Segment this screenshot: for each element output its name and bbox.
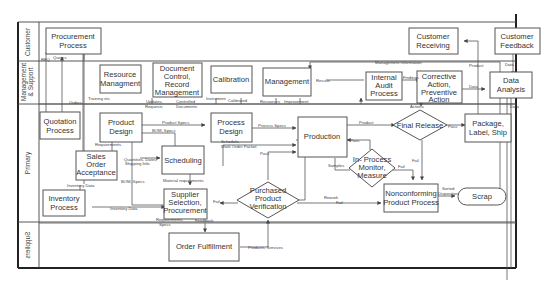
lane-label-primary: Primary — [24, 151, 32, 174]
svg-text:Data: Data — [503, 76, 520, 85]
svg-text:Procurement: Procurement — [51, 32, 95, 41]
svg-text:Fail: Fail — [213, 199, 220, 204]
svg-text:Action: Action — [428, 95, 449, 104]
svg-text:Management Information: Management Information — [375, 60, 422, 65]
svg-text:BOM, Specs: BOM, Specs — [152, 128, 176, 133]
terminal-scrap[interactable]: Scrap — [458, 188, 506, 205]
svg-text:Instrument: Instrument — [206, 96, 227, 101]
svg-text:Results: Results — [316, 78, 330, 83]
process-package-label-ship[interactable]: Package, Label, Ship — [465, 114, 511, 142]
svg-text:Measure: Measure — [357, 171, 387, 180]
svg-text:Calibrated: Calibrated — [228, 98, 248, 103]
decision-purchased-product-verification[interactable]: Purchased Product Verification — [237, 182, 299, 218]
process-quotation[interactable]: Quotation Process — [40, 112, 80, 139]
svg-text:Production: Production — [304, 132, 340, 141]
process-customer-feedback[interactable]: Customer Feedback — [495, 28, 540, 54]
svg-text:Work Order Packet: Work Order Packet — [221, 144, 257, 149]
process-customer-receiving[interactable]: Customer Receiving — [409, 28, 458, 54]
svg-text:Material requirements: Material requirements — [163, 178, 204, 183]
process-data-analysis[interactable]: Data Analysis — [490, 72, 532, 98]
decision-in-process-monitor[interactable]: In- Process Monitor, Measure — [349, 149, 395, 187]
process-procurement[interactable]: Procurement Process — [46, 28, 101, 54]
svg-text:Resources: Resources — [260, 99, 280, 104]
svg-text:Calibration: Calibration — [213, 75, 249, 84]
svg-text:Fail: Fail — [412, 158, 419, 163]
process-production[interactable]: Production — [298, 117, 347, 157]
process-process-design[interactable]: Process Design — [211, 113, 252, 142]
svg-text:Process: Process — [59, 41, 87, 50]
svg-text:Requirements: Requirements — [95, 142, 121, 147]
svg-text:Quotation: Quotation — [44, 117, 77, 126]
process-order-fulfillment[interactable]: Order Fulfillment — [169, 233, 239, 261]
process-scheduling[interactable]: Scheduling — [162, 146, 204, 174]
svg-text:Products, Services: Products, Services — [248, 245, 283, 250]
svg-text:Label, Ship: Label, Ship — [469, 128, 507, 137]
svg-text:Shipping Info.: Shipping Info. — [125, 161, 151, 166]
svg-text:RFQ: RFQ — [41, 57, 51, 62]
process-supplier-selection[interactable]: Supplier Selection, Procurement — [163, 189, 207, 219]
process-resource-management[interactable]: Resource Managment — [100, 65, 141, 93]
svg-text:Fail: Fail — [398, 164, 405, 169]
process-document-control[interactable]: Document Control, Record Management — [153, 63, 202, 97]
decision-final-release[interactable]: Final Release — [393, 110, 447, 140]
svg-text:Verification: Verification — [249, 202, 286, 211]
svg-text:Specs: Specs — [159, 222, 171, 227]
svg-text:Inventory Data: Inventory Data — [110, 206, 138, 211]
process-nonconforming-product[interactable]: Nonconforming Product Process — [383, 184, 439, 212]
lane-label-suppliers: Suppliers — [24, 231, 32, 259]
svg-text:Data: Data — [505, 62, 515, 67]
svg-text:Documents: Documents — [176, 104, 197, 109]
svg-text:Nonconforming: Nonconforming — [385, 189, 437, 198]
svg-text:Process: Process — [217, 118, 245, 127]
svg-text:Feedback: Feedback — [500, 41, 534, 50]
svg-text:Inventory: Inventory — [48, 194, 79, 203]
svg-text:Product: Product — [108, 118, 135, 127]
svg-text:Acceptance: Acceptance — [76, 168, 116, 177]
lane-label-customer: Customer — [24, 27, 31, 56]
process-product-design[interactable]: Product Design — [100, 113, 142, 142]
svg-text:Scrap: Scrap — [472, 192, 492, 201]
svg-text:Management: Management — [155, 88, 200, 97]
svg-text:Findings: Findings — [403, 75, 419, 80]
svg-text:Managment: Managment — [100, 79, 141, 88]
svg-text:Inventory Data: Inventory Data — [67, 183, 95, 188]
svg-text:Pass: Pass — [350, 138, 359, 143]
svg-text:Product Specs: Product Specs — [162, 120, 189, 125]
svg-text:Design: Design — [109, 127, 133, 136]
svg-text:BOM, Specs: BOM, Specs — [121, 179, 145, 184]
process-internal-audit[interactable]: Internal Audit Process — [366, 72, 402, 100]
svg-text:Process Specs: Process Specs — [258, 123, 286, 128]
svg-text:Requests: Requests — [145, 104, 163, 109]
svg-text:Final Release: Final Release — [397, 121, 443, 130]
svg-text:Design: Design — [219, 127, 243, 136]
svg-text:Improvement: Improvement — [284, 99, 309, 104]
process-inventory[interactable]: Inventory Process — [43, 190, 85, 216]
svg-text:Samples: Samples — [328, 163, 344, 168]
process-calibration[interactable]: Calibration — [211, 66, 252, 93]
svg-text:Feedback: Feedback — [195, 218, 214, 223]
svg-text:Product Process: Product Process — [383, 198, 439, 207]
process-management[interactable]: Management — [263, 68, 311, 96]
svg-text:Product: Product — [359, 120, 374, 125]
svg-text:Data: Data — [510, 104, 520, 109]
svg-text:Orders: Orders — [69, 100, 82, 105]
svg-text:Data: Data — [469, 84, 479, 89]
process-corrective-preventive-action[interactable]: Corrective Action, Preventive Action — [417, 71, 462, 104]
svg-text:Procurement: Procurement — [163, 206, 207, 215]
svg-text:Customer: Customer — [501, 32, 534, 41]
svg-text:Process: Process — [50, 203, 78, 212]
svg-text:Process: Process — [46, 126, 74, 135]
svg-text:Customer: Customer — [417, 32, 450, 41]
svg-text:Pass: Pass — [448, 124, 457, 129]
svg-text:Fail: Fail — [336, 200, 343, 205]
svg-text:Resource: Resource — [104, 70, 137, 79]
svg-text:Pass: Pass — [260, 151, 269, 156]
svg-text:Analysis: Analysis — [497, 85, 525, 94]
svg-text:Management: Management — [265, 77, 310, 86]
lane-label-support: & Support — [27, 67, 35, 96]
svg-text:Disposition: Disposition — [438, 191, 459, 196]
process-sales-order-acceptance[interactable]: Sales Order Acceptance — [76, 151, 117, 180]
svg-text:Quotes: Quotes — [53, 55, 67, 60]
svg-text:Scheduling: Scheduling — [164, 156, 202, 165]
swimlane-process-diagram: Customer Management & Support Primary Su… — [0, 0, 553, 284]
